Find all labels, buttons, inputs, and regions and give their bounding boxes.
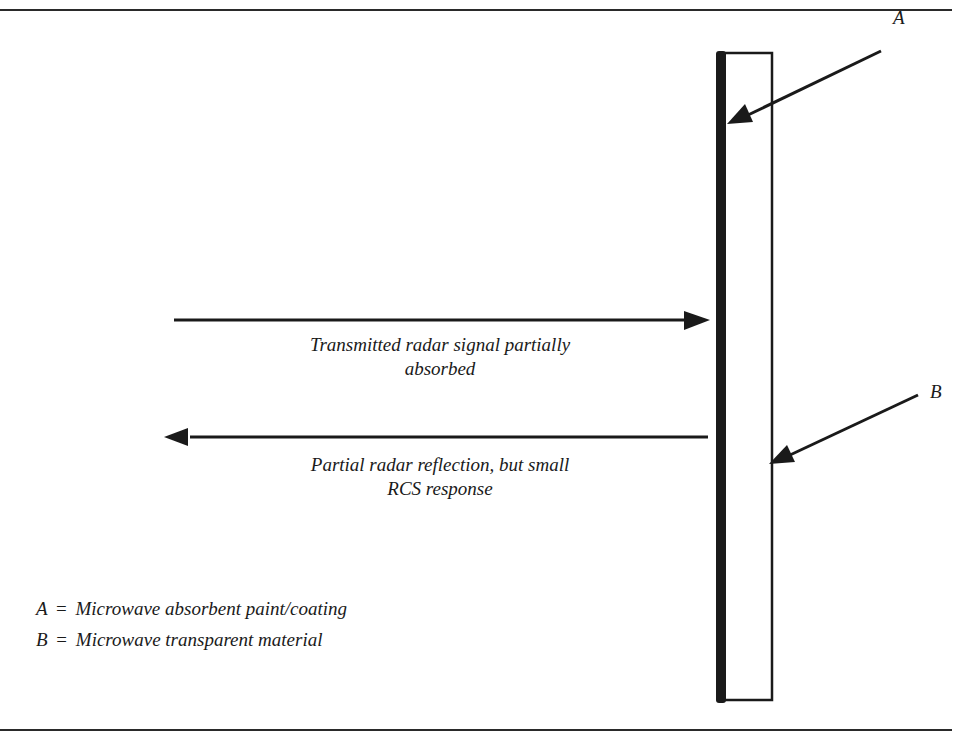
legend-sep: = — [56, 629, 67, 650]
legend-sep: = — [56, 598, 67, 619]
absorbent-coating-layer — [716, 51, 726, 703]
reflection-caption: Partial radar reflection, but small RCS … — [250, 453, 630, 501]
legend-item-a: A = Microwave absorbent paint/coating — [36, 593, 347, 624]
transmitted-signal-caption: Transmitted radar signal partially absor… — [250, 333, 630, 381]
transmitted-caption-line-1: Transmitted radar signal partially — [250, 333, 630, 357]
legend: A = Microwave absorbent paint/coating B … — [36, 593, 347, 655]
callout-a-label: A — [893, 7, 905, 29]
reflected-signal-arrow — [164, 428, 708, 446]
legend-key: A — [36, 598, 47, 619]
legend-key: B — [36, 629, 48, 650]
transmitted-caption-line-2: absorbed — [250, 357, 630, 381]
callout-b-label: B — [930, 381, 942, 403]
callout-b-arrow — [769, 395, 918, 464]
reflection-caption-line-2: RCS response — [250, 477, 630, 501]
transparent-material-panel — [721, 53, 772, 700]
transmitted-signal-arrow — [174, 311, 710, 330]
legend-description: Microwave transparent material — [76, 629, 323, 650]
legend-description: Microwave absorbent paint/coating — [75, 598, 347, 619]
legend-item-b: B = Microwave transparent material — [36, 624, 347, 655]
callout-a-arrow — [727, 51, 881, 124]
reflection-caption-line-1: Partial radar reflection, but small — [250, 453, 630, 477]
